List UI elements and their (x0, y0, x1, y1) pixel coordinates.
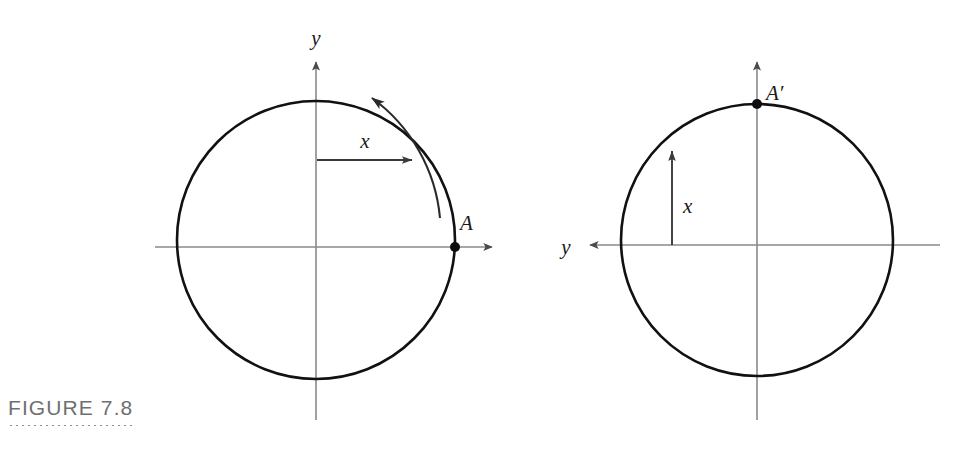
figure-caption-label: FIGURE 7.8 (8, 396, 198, 419)
right-panel: y x A′ (559, 62, 940, 420)
right-panel-point-a-prime-label: A′ (764, 81, 784, 105)
figure-caption: FIGURE 7.8 (8, 396, 198, 427)
left-panel-y-axis-label: y (309, 26, 321, 50)
left-panel: y x A (155, 26, 492, 420)
left-panel-point-a-dot (450, 242, 460, 252)
figure-svg-canvas: y x A y x A′ (0, 0, 955, 454)
right-panel-x-measure-label: x (682, 194, 693, 218)
right-panel-y-axis-label: y (559, 235, 571, 259)
right-panel-point-a-prime-dot (752, 99, 762, 109)
figure-caption-dotted-rule (8, 424, 136, 427)
left-panel-point-a-label: A (458, 211, 473, 235)
left-panel-x-measure-label: x (359, 129, 370, 153)
figure-container: y x A y x A′ FIGURE 7.8 (0, 0, 955, 454)
